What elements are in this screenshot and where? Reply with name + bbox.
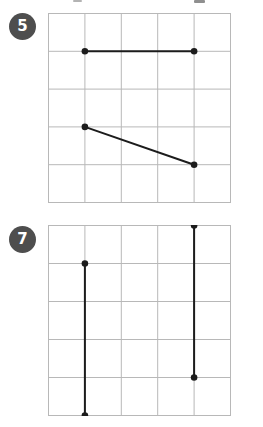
problem-number: 7	[17, 232, 27, 247]
segment-endpoint-dot	[191, 225, 198, 229]
problem-number: 5	[17, 19, 27, 34]
segment-endpoint-dot	[191, 161, 198, 168]
problem-number-badge: 7	[9, 226, 36, 253]
cropped-text-fragment	[194, 0, 205, 3]
worksheet-page: 5 7	[0, 0, 263, 427]
segment-endpoint-dot	[82, 124, 89, 131]
segment-endpoint-dot	[82, 48, 89, 55]
cropped-text-fragment	[73, 0, 82, 2]
grid-diagram	[48, 225, 231, 416]
segment-endpoint-dot	[82, 260, 89, 267]
grid-diagram	[48, 13, 231, 203]
segment-endpoint-dot	[191, 48, 198, 55]
problem-number-badge: 5	[9, 13, 36, 40]
segment-endpoint-dot	[191, 374, 198, 381]
line-segment	[85, 127, 194, 165]
segment-endpoint-dot	[82, 412, 89, 416]
